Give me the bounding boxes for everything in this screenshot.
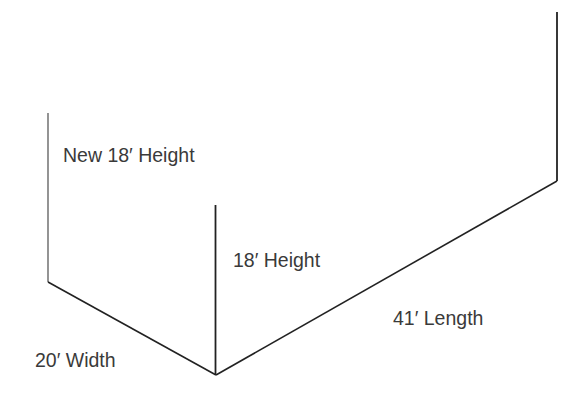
height-label: 18′ Height bbox=[233, 249, 321, 271]
wall-dimension-diagram: New 18′ Height 18′ Height 20′ Width 41′ … bbox=[0, 0, 583, 398]
length-label: 41′ Length bbox=[393, 307, 483, 329]
new-height-label: New 18′ Height bbox=[63, 144, 195, 166]
length-edge bbox=[216, 181, 557, 375]
width-label: 20′ Width bbox=[35, 349, 116, 371]
